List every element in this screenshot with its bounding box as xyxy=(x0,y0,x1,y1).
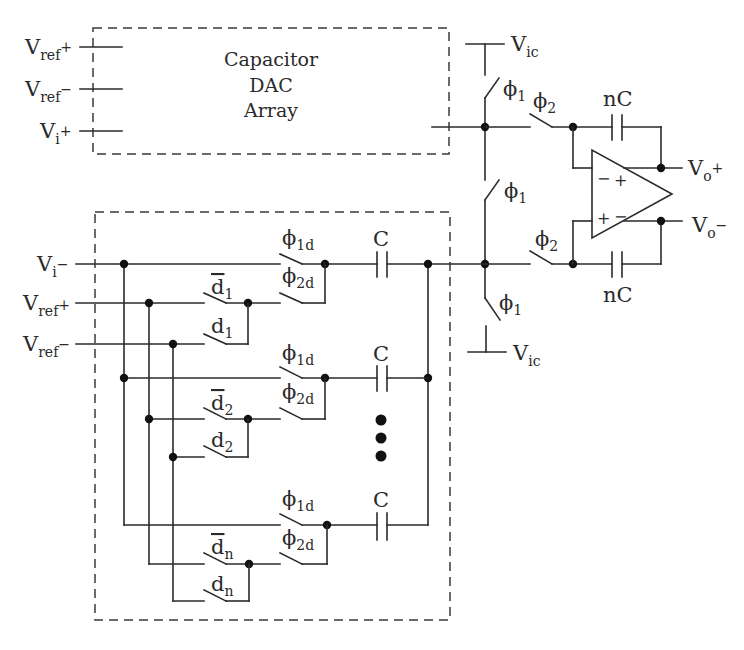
label-row2-d: d2 xyxy=(211,428,233,455)
svg-text:Vref+: Vref+ xyxy=(24,35,72,63)
amp-top-minus: − xyxy=(597,169,610,188)
label-vo-plus: Vo+ xyxy=(687,156,723,184)
label-row2-phi1d: ϕ1d xyxy=(282,341,314,368)
label-row1-dbar: d1 xyxy=(211,275,233,302)
label-row2-cap: C xyxy=(373,342,389,366)
dac-label-line1: Capacitor xyxy=(224,48,319,70)
label-row1-d: d1 xyxy=(211,314,233,341)
svg-text:d2: d2 xyxy=(211,391,233,418)
amp-bottom-plus: + xyxy=(597,209,610,228)
svg-text:ϕ1: ϕ1 xyxy=(503,77,526,104)
svg-text:Vo−: Vo− xyxy=(691,213,727,241)
dac-label-line2: DAC xyxy=(249,74,293,96)
label-phi1-b: ϕ1 xyxy=(504,179,527,206)
svg-text:ϕ1d: ϕ1d xyxy=(282,341,314,368)
label-vi-plus: Vi+ xyxy=(39,119,71,147)
schematic-svg: Capacitor DAC Array Vref+ Vref− Vi+ Vic … xyxy=(0,0,744,650)
label-phi2-top: ϕ2 xyxy=(533,89,556,116)
amp-bottom-minus: − xyxy=(614,207,627,226)
svg-text:dn: dn xyxy=(211,535,233,562)
circuit-diagram: Capacitor DAC Array Vref+ Vref− Vi+ Vic … xyxy=(0,0,744,650)
label-row1-phi1d: ϕ1d xyxy=(282,226,314,253)
svg-text:ϕ1d: ϕ1d xyxy=(282,226,314,253)
label-rown-cap: C xyxy=(373,488,389,512)
label-row1-cap: C xyxy=(373,227,389,251)
label-vic-top: Vic xyxy=(510,32,539,60)
svg-text:Vref−: Vref− xyxy=(24,77,72,105)
svg-text:d1: d1 xyxy=(211,275,233,302)
svg-text:ϕ2d: ϕ2d xyxy=(282,526,314,553)
svg-text:ϕ1: ϕ1 xyxy=(499,291,522,318)
label-vref-plus-top: Vref+ xyxy=(24,35,72,63)
label-vi-minus: Vi− xyxy=(36,252,68,280)
label-vref-minus-top: Vref− xyxy=(24,77,72,105)
svg-text:dn: dn xyxy=(211,572,233,599)
svg-text:ϕ2d: ϕ2d xyxy=(282,380,314,407)
svg-text:ϕ1: ϕ1 xyxy=(504,179,527,206)
svg-text:ϕ2: ϕ2 xyxy=(535,227,558,254)
dac-label-line3: Array xyxy=(243,99,298,121)
label-rown-phi2d: ϕ2d xyxy=(282,526,314,553)
label-vic-bottom: Vic xyxy=(512,341,541,369)
label-nc-top: nC xyxy=(603,87,633,111)
svg-text:Vi−: Vi− xyxy=(36,252,68,280)
svg-text:Vo+: Vo+ xyxy=(687,156,723,184)
label-rown-phi1d: ϕ1d xyxy=(282,487,314,514)
svg-text:Vic: Vic xyxy=(512,341,541,369)
label-phi1-a: ϕ1 xyxy=(503,77,526,104)
svg-text:Vref−: Vref− xyxy=(22,332,70,360)
lower-dac-block xyxy=(76,212,485,620)
svg-text:Vref+: Vref+ xyxy=(22,291,70,319)
svg-text:Vic: Vic xyxy=(510,32,539,60)
svg-text:ϕ2d: ϕ2d xyxy=(282,264,314,291)
svg-text:ϕ1d: ϕ1d xyxy=(282,487,314,514)
amp-top-plus: + xyxy=(614,171,627,190)
label-vref-minus-bottom: Vref− xyxy=(22,332,70,360)
svg-text:ϕ2: ϕ2 xyxy=(533,89,556,116)
svg-text:d2: d2 xyxy=(211,428,233,455)
svg-text:d1: d1 xyxy=(211,314,233,341)
svg-text:Vi+: Vi+ xyxy=(39,119,71,147)
label-vo-minus: Vo− xyxy=(691,213,727,241)
label-vref-plus-bottom: Vref+ xyxy=(22,291,70,319)
label-row1-phi2d: ϕ2d xyxy=(282,264,314,291)
label-phi2-bottom: ϕ2 xyxy=(535,227,558,254)
label-rown-d: dn xyxy=(211,572,233,599)
label-rown-dbar: dn xyxy=(211,535,233,562)
label-row2-dbar: d2 xyxy=(211,391,233,418)
label-phi1-c: ϕ1 xyxy=(499,291,522,318)
label-row2-phi2d: ϕ2d xyxy=(282,380,314,407)
label-nc-bottom: nC xyxy=(603,283,633,307)
